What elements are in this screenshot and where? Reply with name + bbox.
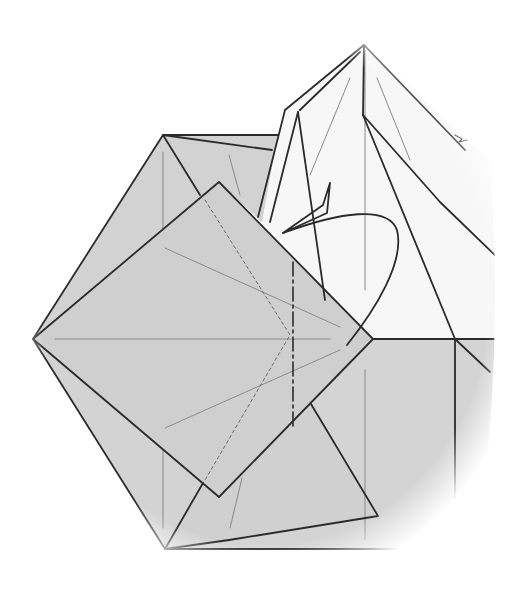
diagram-canvas: [0, 0, 530, 589]
origami-diagram: [0, 0, 530, 589]
vignette-overlay: [0, 0, 530, 589]
